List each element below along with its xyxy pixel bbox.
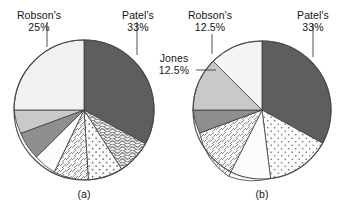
label-b-robsons: Robson's 12.5% [172,10,248,33]
label-a-patels-name: Patel's [122,9,154,21]
caption-b: (b) [232,188,292,200]
label-b-patels: Patel's 33% [285,10,341,33]
label-a-robsons: Robson's 25% [2,10,76,33]
pie-chart-a [14,22,154,180]
label-a-patels-pct: 33% [108,22,168,34]
caption-a: (a) [54,188,114,200]
label-b-jones-pct: 12.5% [146,65,202,77]
label-b-patels-pct: 33% [285,22,341,34]
label-b-jones-name: Jones [160,52,189,64]
pie-chart-b [193,24,331,181]
label-b-robsons-name: Robson's [188,9,232,21]
label-b-jones: Jones 12.5% [146,53,202,76]
label-b-patels-name: Patel's [297,9,329,21]
label-a-patels: Patel's 33% [108,10,168,33]
label-a-robsons-pct: 25% [2,22,76,34]
label-b-robsons-pct: 12.5% [172,22,248,34]
label-a-robsons-name: Robson's [17,9,61,21]
pie-chart-figure: Robson's 25% Patel's 33% Robson's 12.5% … [0,0,345,209]
slice-a-robsons [14,40,84,110]
